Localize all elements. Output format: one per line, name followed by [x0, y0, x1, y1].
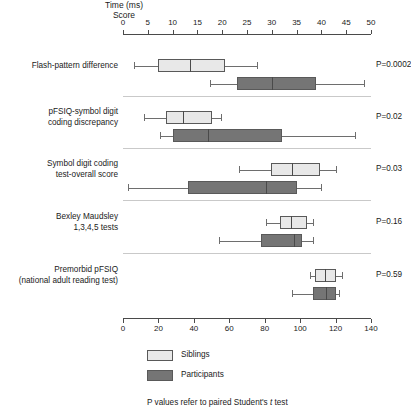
axis-tick	[158, 319, 159, 323]
whisker-high-cap	[313, 237, 314, 244]
legend-swatch	[147, 370, 173, 381]
whisker-high-cap	[364, 80, 365, 87]
whisker-low-cap	[160, 132, 161, 139]
group-label-line: test-overall score	[47, 169, 118, 180]
axis-tick-label: 35	[292, 18, 301, 27]
whisker-low-cap	[128, 184, 129, 191]
axis-line-top	[123, 34, 371, 35]
axis-tick	[336, 319, 337, 323]
p-value-label: P=0.16	[376, 217, 402, 226]
axis-tick-label: 45	[342, 18, 351, 27]
footnote-suffix: test	[272, 398, 287, 407]
axis-tick-label: 60	[225, 324, 234, 333]
axis-tick	[300, 319, 301, 323]
axis-tick	[197, 30, 198, 34]
box-iqr	[237, 77, 316, 90]
box-iqr	[188, 181, 297, 194]
box-iqr	[313, 287, 335, 300]
axis-tick	[247, 30, 248, 34]
axis-tick-label: 40	[189, 324, 198, 333]
whisker-low	[144, 118, 165, 119]
whisker-low-cap	[239, 166, 240, 173]
whisker-high	[225, 66, 257, 67]
whisker-high-cap	[339, 290, 340, 297]
median-line	[272, 77, 273, 90]
axis-tick	[222, 30, 223, 34]
axis-tick-label: 10	[168, 18, 177, 27]
axis-tick-label: 15	[193, 18, 202, 27]
axis-tick	[229, 319, 230, 323]
group-label-line: coding discrepancy	[48, 117, 118, 128]
median-line	[292, 163, 293, 176]
group-label-line: Premorbid pFSIQ	[19, 264, 118, 275]
axis-tick-label: 100	[293, 324, 306, 333]
group-label: Flash-pattern difference	[32, 60, 118, 71]
axis-tick-label: 0	[121, 324, 125, 333]
whisker-high	[282, 136, 355, 137]
whisker-high	[316, 84, 363, 85]
axis-tick-label: 20	[218, 18, 227, 27]
box-iqr	[261, 234, 302, 247]
group-label-line: Bexley Maudsley	[56, 211, 118, 222]
whisker-low-cap	[310, 272, 311, 279]
whisker-low	[266, 223, 279, 224]
axis-tick	[272, 30, 273, 34]
axis-tick	[123, 319, 124, 323]
whisker-low	[239, 170, 271, 171]
axis-tick	[346, 30, 347, 34]
group-label-line: (national adult reading test)	[19, 275, 118, 286]
p-value-label: P=0.0002	[376, 60, 411, 69]
median-line	[266, 181, 267, 194]
group-label: pFSIQ-symbol digitcoding discrepancy	[48, 106, 118, 128]
axis-tick-label: 30	[267, 18, 276, 27]
axis-tick	[123, 30, 124, 34]
whisker-low-cap	[292, 290, 293, 297]
box-iqr	[271, 163, 320, 176]
axis-line-bottom	[123, 318, 371, 319]
group-separator	[123, 200, 371, 201]
whisker-high-cap	[257, 62, 258, 69]
group-label: Bexley Maudsley1,3,4,5 tests	[56, 211, 118, 233]
box-iqr	[280, 216, 307, 229]
axis-tick	[148, 30, 149, 34]
legend-label: Siblings	[181, 350, 210, 359]
box-iqr	[166, 111, 212, 124]
axis-tick	[265, 319, 266, 323]
group-label-line: Flash-pattern difference	[32, 60, 118, 71]
whisker-high	[212, 118, 222, 119]
footnote-prefix: P values refer to paired Student's	[147, 398, 270, 407]
axis-tick-label: 5	[146, 18, 150, 27]
whisker-low	[219, 241, 262, 242]
median-line	[291, 216, 292, 229]
whisker-low-cap	[219, 237, 220, 244]
whisker-high-cap	[342, 272, 343, 279]
whisker-high-cap	[313, 219, 314, 226]
box-iqr	[158, 59, 225, 72]
whisker-high-cap	[221, 114, 222, 121]
whisker-low-cap	[144, 114, 145, 121]
axis-tick-label: 40	[317, 18, 326, 27]
p-value-label: P=0.02	[376, 112, 402, 121]
whisker-low	[160, 136, 172, 137]
whisker-high-cap	[336, 166, 337, 173]
legend-footnote: P values refer to paired Student's t tes…	[147, 398, 288, 407]
axis-tick-label: 0	[121, 18, 125, 27]
whisker-low	[128, 188, 188, 189]
median-line	[325, 269, 326, 282]
axis-title-top: Time (ms)	[0, 0, 248, 10]
p-value-label: P=0.03	[376, 164, 402, 173]
median-line	[190, 59, 191, 72]
group-label: Symbol digit codingtest-overall score	[47, 158, 118, 180]
median-line	[294, 234, 295, 247]
median-line	[208, 129, 209, 142]
whisker-low	[210, 84, 237, 85]
whisker-low	[292, 294, 313, 295]
axis-tick	[194, 319, 195, 323]
group-label: Premorbid pFSIQ(national adult reading t…	[19, 264, 118, 286]
whisker-high-cap	[355, 132, 356, 139]
legend-swatch	[147, 350, 173, 361]
axis-tick-label: 140	[364, 324, 377, 333]
axis-tick	[321, 30, 322, 34]
whisker-low	[134, 66, 158, 67]
